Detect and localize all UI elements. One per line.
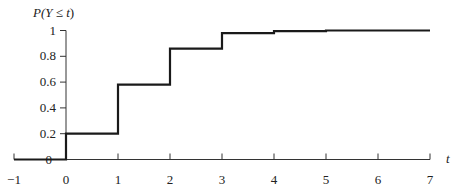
x-tick-label: 1 — [115, 172, 122, 187]
x-axis-title: t — [446, 151, 450, 166]
cdf-step-chart: −10123456700.20.40.60.81 P(Y ≤ t) t — [0, 0, 455, 190]
x-tick-label: 2 — [167, 172, 174, 187]
x-tick-label: 0 — [63, 172, 70, 187]
x-tick-label: 7 — [427, 172, 434, 187]
cdf-step-path — [14, 31, 430, 160]
x-tick-label: 5 — [323, 172, 330, 187]
y-tick-label: 0.8 — [40, 48, 56, 63]
axes: −10123456700.20.40.60.81 — [7, 23, 434, 188]
x-tick-label: −1 — [7, 172, 21, 187]
y-tick-label: 0.6 — [40, 74, 57, 89]
y-tick-label: 1 — [50, 23, 57, 38]
x-tick-label: 6 — [375, 172, 382, 187]
y-tick-label: 0.4 — [40, 100, 57, 115]
x-tick-label: 4 — [271, 172, 278, 187]
x-tick-label: 3 — [219, 172, 226, 187]
step-line — [14, 31, 430, 160]
y-axis-title: P(Y ≤ t) — [32, 5, 74, 20]
y-tick-label: 0.2 — [40, 126, 56, 141]
